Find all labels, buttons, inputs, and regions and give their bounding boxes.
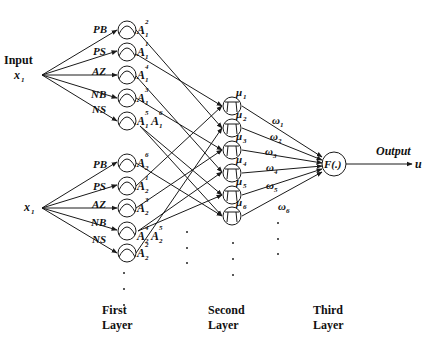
svg-text:1: 1 (145, 31, 149, 39)
svg-text:4: 4 (144, 63, 149, 71)
svg-text:PS: PS (93, 45, 106, 57)
svg-text:1: 1 (159, 122, 163, 130)
svg-text:A: A (136, 246, 145, 260)
svg-text:6: 6 (159, 109, 163, 117)
svg-text:A: A (150, 229, 159, 243)
layer-label-second: Second Layer (208, 303, 245, 333)
svg-text:NS: NS (91, 233, 106, 245)
svg-text:1: 1 (280, 121, 284, 129)
svg-text:μ: μ (235, 196, 242, 208)
svg-text:4: 4 (273, 168, 278, 176)
output-var: u (415, 157, 422, 171)
membership-node (118, 244, 136, 262)
svg-text:A: A (136, 201, 145, 215)
svg-text:3: 3 (144, 196, 149, 204)
svg-text:6: 6 (145, 151, 149, 159)
svg-text:2: 2 (144, 209, 149, 217)
input-x1-bottom: x 1 (23, 200, 35, 216)
svg-text:1: 1 (145, 99, 149, 107)
svg-text:6: 6 (243, 203, 247, 211)
svg-text:A: A (136, 68, 145, 82)
membership-node (118, 222, 136, 240)
svg-text:NB: NB (90, 216, 106, 228)
layer1-ellipsis (123, 272, 125, 306)
svg-text:1: 1 (145, 122, 149, 130)
membership-node (118, 112, 136, 130)
svg-text:2: 2 (144, 18, 149, 26)
svg-text:ω: ω (272, 114, 280, 126)
svg-text:NS: NS (91, 103, 106, 115)
fuzzy-neural-network-diagram: Input x 1 x 1 PB PS AZ NB NS PB PS AZ NB… (0, 0, 433, 348)
svg-text:A: A (136, 156, 145, 170)
fuzzy-set-labels-group1: PB PS AZ NB NS (90, 23, 107, 115)
membership-node (118, 66, 136, 84)
svg-text:4: 4 (242, 160, 247, 168)
weight-labels: ω1 ω2 ω3 ω4 ω5 ω6 (265, 114, 290, 215)
svg-text:μ: μ (235, 108, 242, 120)
svg-text:A: A (136, 114, 145, 128)
membership-node (118, 154, 136, 172)
svg-text:1: 1 (21, 76, 25, 84)
svg-text:2: 2 (158, 237, 163, 245)
svg-text:2: 2 (242, 115, 247, 123)
svg-text:F(.): F(.) (323, 158, 341, 171)
svg-text:5: 5 (274, 186, 278, 194)
input-label: Input (4, 53, 33, 67)
svg-text:A: A (136, 91, 145, 105)
svg-text:2: 2 (144, 187, 149, 195)
membership-node (118, 43, 136, 61)
membership-node (118, 177, 136, 195)
svg-text:ω: ω (266, 179, 274, 191)
svg-text:x: x (23, 200, 30, 214)
svg-text:μ: μ (235, 153, 242, 165)
svg-text:1: 1 (145, 40, 149, 48)
svg-text:x: x (13, 68, 20, 82)
svg-text:5: 5 (145, 109, 149, 117)
svg-text:2: 2 (277, 137, 282, 145)
svg-text:5: 5 (243, 182, 247, 190)
svg-text:2: 2 (144, 254, 149, 262)
layer1-nodes-group1 (118, 21, 136, 130)
svg-text:3: 3 (242, 137, 247, 145)
membership-node (118, 199, 136, 217)
fuzzy-set-labels-group2: PB PS AZ NB NS (90, 158, 107, 245)
svg-text:1: 1 (145, 53, 149, 61)
svg-text:μ: μ (235, 130, 242, 142)
svg-text:A: A (136, 179, 145, 193)
svg-text:6: 6 (286, 207, 290, 215)
svg-text:ω: ω (266, 161, 274, 173)
svg-text:PS: PS (93, 180, 106, 192)
svg-text:NB: NB (90, 88, 106, 100)
layer-label-first: First Layer (102, 303, 133, 333)
svg-text:A: A (136, 23, 145, 37)
svg-text:PB: PB (93, 158, 107, 170)
output-label: Output (376, 144, 411, 158)
svg-text:1: 1 (31, 208, 35, 216)
svg-text:ω: ω (278, 200, 286, 212)
svg-text:A: A (136, 229, 145, 243)
svg-text:A: A (150, 114, 159, 128)
svg-text:μ: μ (235, 175, 242, 187)
svg-text:3: 3 (272, 152, 277, 160)
svg-text:1: 1 (145, 76, 149, 84)
output-node: F(.) (322, 152, 346, 176)
svg-text:2: 2 (144, 164, 149, 172)
input-x1-top: x 1 (13, 68, 25, 84)
layer2-ellipsis (186, 222, 279, 276)
svg-text:AZ: AZ (91, 65, 106, 77)
svg-text:μ: μ (235, 86, 242, 98)
svg-text:A: A (136, 45, 145, 59)
layer1-to-layer2-wires (136, 30, 222, 253)
svg-text:3: 3 (144, 86, 149, 94)
rule-node (223, 207, 241, 225)
layer-label-third: Third Layer (313, 303, 344, 333)
svg-text:5: 5 (159, 224, 163, 232)
membership-node (118, 89, 136, 107)
layer1-nodes-group2 (118, 154, 136, 262)
svg-text:1: 1 (243, 93, 247, 101)
svg-text:AZ: AZ (91, 198, 106, 210)
svg-text:ω: ω (270, 130, 278, 142)
svg-text:2: 2 (144, 241, 149, 249)
svg-text:4: 4 (144, 224, 149, 232)
mf-labels-group2: A 6 2 A 1 2 A 3 2 A 4 2 A 5 2 A 2 2 (136, 151, 163, 262)
